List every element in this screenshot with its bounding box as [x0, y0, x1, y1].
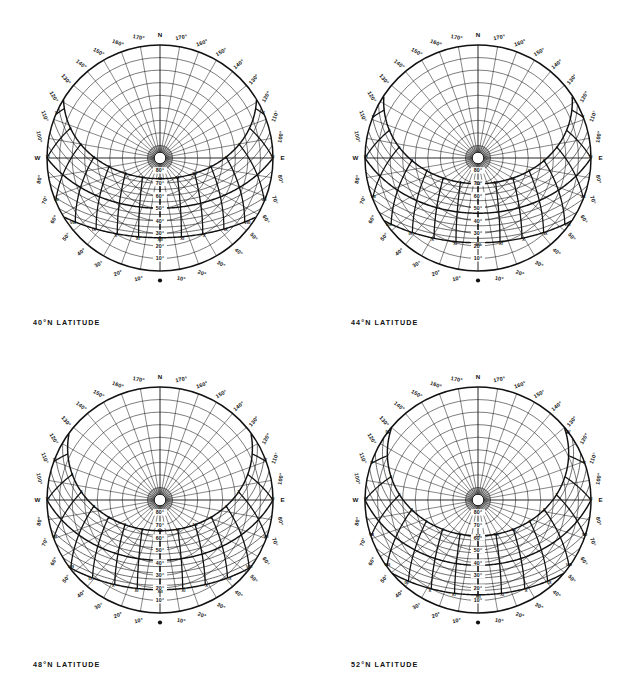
altitude-label-50: 50° — [156, 205, 165, 211]
azimuth-line-150 — [104, 60, 158, 153]
hour-label-pm-VII: VII — [52, 534, 57, 539]
hour-label-pm-IX: IX — [404, 580, 408, 585]
azimuth-label-150: 150° — [92, 46, 105, 57]
azimuth-label-30: 30° — [93, 601, 104, 611]
cardinal-label-W: W — [35, 154, 41, 161]
hour-label-pm-XI: XI — [452, 592, 456, 597]
azimuth-label-160: 160° — [195, 380, 208, 390]
azimuth-label-70: 70° — [40, 537, 49, 547]
azimuth-label-120: 120° — [260, 432, 271, 445]
hour-label-V: V — [581, 114, 584, 119]
azimuth-label-70: 70° — [271, 195, 280, 205]
hour-label-X: X — [203, 233, 206, 238]
hour-numeral-11: 11 — [494, 532, 499, 537]
zenith-hub — [472, 152, 484, 164]
cardinal-label-W: W — [353, 154, 359, 161]
azimuth-label-10: 10° — [134, 275, 144, 282]
azimuth-tick — [166, 159, 173, 160]
azimuth-label-120: 120° — [578, 432, 589, 445]
cardinal-label-E: E — [598, 496, 602, 503]
azimuth-tick — [484, 501, 491, 502]
azimuth-line-80 — [49, 501, 155, 520]
azimuth-label-80: 80° — [277, 516, 284, 526]
azimuth-label-140: 140° — [75, 58, 88, 70]
azimuth-label-140: 140° — [550, 58, 563, 70]
cardinal-label-W: W — [35, 496, 41, 503]
azimuth-label-130: 130° — [378, 73, 390, 86]
azimuth-tick — [166, 498, 173, 499]
azimuth-line-30 — [104, 163, 158, 256]
hour-numeral-10: 10 — [511, 527, 516, 532]
altitude-label-40: 40° — [474, 560, 483, 566]
altitude-label-40: 40° — [156, 560, 165, 566]
azimuth-label-160: 160° — [513, 380, 526, 390]
azimuth-label-160: 160° — [112, 38, 125, 48]
azimuth-line-150 — [422, 60, 476, 153]
cardinal-label-N: N — [476, 373, 481, 380]
hour-label-pm-VII: VII — [369, 532, 374, 537]
chart-caption: 40°N LATITUDE — [33, 318, 100, 327]
azimuth-line-200 — [162, 52, 199, 153]
azimuth-label-110: 110° — [40, 452, 50, 465]
azimuth-label-150: 150° — [214, 388, 227, 399]
azimuth-label-160: 160° — [430, 380, 443, 390]
azimuth-label-10: 10° — [452, 275, 462, 282]
azimuth-label-120: 120° — [366, 432, 377, 445]
altitude-label-20: 20° — [156, 243, 165, 249]
azimuth-tick — [148, 498, 155, 499]
azimuth-line-260 — [166, 480, 272, 499]
azimuth-tick — [158, 146, 159, 153]
cardinal-label-S — [476, 620, 480, 624]
azimuth-label-60: 60° — [367, 556, 377, 567]
azimuth-tick — [148, 501, 155, 502]
azimuth-line-100 — [367, 138, 473, 157]
cardinal-label-W: W — [353, 496, 359, 503]
azimuth-label-10: 10° — [176, 617, 186, 624]
azimuth-label-100: 100° — [276, 130, 284, 143]
hour-label-pm-X: X — [431, 237, 434, 242]
azimuth-line-150 — [422, 402, 476, 495]
azimuth-label-150: 150° — [410, 46, 423, 57]
hour-label-V: V — [583, 460, 586, 465]
azimuth-label-20: 20° — [197, 611, 207, 620]
azimuth-label-100: 100° — [354, 472, 362, 485]
azimuth-label-130: 130° — [566, 415, 578, 428]
azimuth-label-20: 20° — [197, 269, 207, 278]
azimuth-label-100: 100° — [36, 130, 44, 143]
hour-label-VII: VII — [263, 534, 268, 539]
altitude-label-70: 70° — [156, 522, 165, 528]
hour-numeral-11: 11 — [175, 527, 180, 532]
cardinal-label-N: N — [158, 373, 163, 380]
chart-caption: 48°N LATITUDE — [33, 660, 100, 669]
altitude-label-60: 60° — [474, 193, 483, 199]
azimuth-label-10: 10° — [134, 617, 144, 624]
azimuth-label-160: 160° — [112, 380, 125, 390]
azimuth-label-80: 80° — [353, 516, 360, 526]
altitude-label-70: 70° — [474, 522, 483, 528]
azimuth-line-200 — [162, 394, 199, 495]
sun-path-chart-52n: 10°20°30°40°50°60°70°80°W100°110°120°130… — [318, 348, 638, 695]
hour-label-pm-VIII: VIII — [384, 562, 390, 567]
hour-label-IX: IX — [224, 227, 228, 232]
altitude-label-80: 80° — [156, 509, 165, 515]
azimuth-label-50: 50° — [567, 573, 577, 584]
altitude-label-60: 60° — [156, 193, 165, 199]
azimuth-label-130: 130° — [60, 73, 72, 86]
azimuth-tick — [466, 498, 473, 499]
sun-path-chart-48n: 10°20°30°40°50°60°70°80°W100°110°120°130… — [0, 348, 320, 695]
azimuth-label-100: 100° — [36, 472, 44, 485]
hour-label-pm-V: V — [372, 114, 375, 119]
azimuth-tick — [158, 488, 159, 495]
hour-label-pm-VI: VI — [364, 154, 368, 159]
hour-numeral-12: 12 — [158, 528, 163, 533]
azimuth-tick — [161, 146, 162, 153]
azimuth-tick — [161, 488, 162, 495]
azimuth-label-20: 20° — [431, 611, 441, 620]
altitude-label-50: 50° — [474, 205, 483, 211]
hour-label-VII: VII — [580, 194, 585, 199]
azimuth-label-10: 10° — [494, 275, 504, 282]
azimuth-line-210 — [163, 402, 217, 495]
altitude-label-80: 80° — [474, 167, 483, 173]
hour-numeral-11: 11 — [175, 175, 180, 180]
azimuth-label-80: 80° — [35, 516, 42, 526]
